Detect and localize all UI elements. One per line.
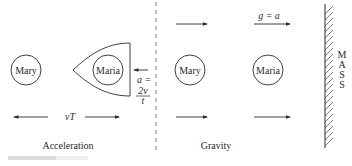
equivalence-diagram: Mary Maria a = 2v t vT Acceleration g = … xyxy=(0,0,352,166)
acceleration-denominator: t xyxy=(142,95,145,106)
gravity-title: Gravity xyxy=(201,140,232,151)
right-panel: g = a Mary Maria Gravity xyxy=(175,4,347,151)
distance-label: vT xyxy=(65,111,76,122)
acceleration-title: Acceleration xyxy=(42,140,93,151)
mary-label-gravity: Mary xyxy=(179,65,201,76)
maria-label-gravity: Maria xyxy=(256,65,280,76)
figure-caption-fragment xyxy=(8,156,88,160)
mary-label: Mary xyxy=(15,65,37,76)
maria-label: Maria xyxy=(96,65,120,76)
mass-letter-s2: S xyxy=(339,79,345,90)
acceleration-label: a = xyxy=(137,74,151,85)
left-panel: Mary Maria a = 2v t vT Acceleration xyxy=(11,43,151,151)
mass-wall xyxy=(325,4,333,148)
field-label: g = a xyxy=(258,10,280,21)
